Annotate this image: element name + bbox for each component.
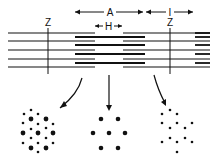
arrow-left-icon bbox=[146, 10, 151, 15]
arrowhead-icon bbox=[106, 105, 112, 111]
diagram-svg: A I H Z Z bbox=[0, 0, 219, 157]
cross-section-h-zone bbox=[91, 117, 128, 151]
sarcomere-diagram: A I H Z Z bbox=[0, 0, 219, 157]
thin-filaments-left bbox=[8, 33, 95, 67]
arrow-right-icon bbox=[138, 10, 143, 15]
arrow-to-i-section bbox=[154, 75, 165, 103]
z-line-left-label: Z bbox=[45, 17, 51, 28]
a-band-dimension: A bbox=[75, 7, 143, 18]
arrow-left-icon bbox=[95, 24, 99, 28]
arrowhead-icon bbox=[60, 101, 67, 108]
h-zone-dimension: H bbox=[95, 21, 122, 32]
arrow-left-icon bbox=[75, 10, 80, 15]
h-zone-label: H bbox=[105, 21, 112, 32]
arrow-right-icon bbox=[188, 10, 193, 15]
cross-section-overlap bbox=[21, 109, 56, 154]
arrow-right-icon bbox=[118, 24, 122, 28]
thin-filaments-right bbox=[123, 33, 210, 67]
z-line-right-label: Z bbox=[167, 17, 173, 28]
a-band-label: A bbox=[107, 7, 114, 18]
cross-section-i-band bbox=[161, 109, 194, 154]
